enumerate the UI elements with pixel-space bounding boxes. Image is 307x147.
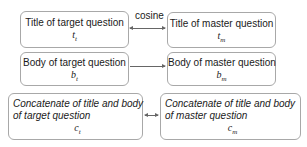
body-master-label: Body of master question [168, 57, 275, 69]
body-target-box: Body of target question bt [20, 52, 129, 86]
title-target-box: Title of target question tt [20, 11, 129, 48]
title-target-label: Title of target question [21, 17, 128, 29]
body-master-box: Body of master question bm [167, 52, 276, 86]
concat-target-box: Concatenate of title and body of target … [8, 93, 143, 140]
concat-master-label-2: of master question [165, 110, 300, 122]
concat-master-label-1: Concatenate of title and body [165, 98, 300, 110]
title-master-symbol: tm [168, 30, 275, 46]
concat-master-box: Concatenate of title and body of master … [160, 93, 301, 140]
body-target-label: Body of target question [21, 57, 128, 69]
body-arrow [130, 66, 165, 67]
concat-arrow [145, 115, 158, 116]
concat-master-symbol: cm [165, 122, 300, 138]
cosine-label: cosine [135, 10, 164, 22]
concat-target-label-2: of target question [13, 110, 142, 122]
body-master-symbol: bm [168, 69, 275, 85]
title-master-label: Title of master question [168, 18, 275, 30]
body-target-symbol: bt [21, 69, 128, 85]
concat-target-symbol: ct [13, 122, 142, 138]
cosine-arrow [130, 28, 165, 29]
concat-target-label-1: Concatenate of title and body [13, 98, 142, 110]
title-target-symbol: tt [21, 29, 128, 45]
title-master-box: Title of master question tm [167, 12, 276, 48]
